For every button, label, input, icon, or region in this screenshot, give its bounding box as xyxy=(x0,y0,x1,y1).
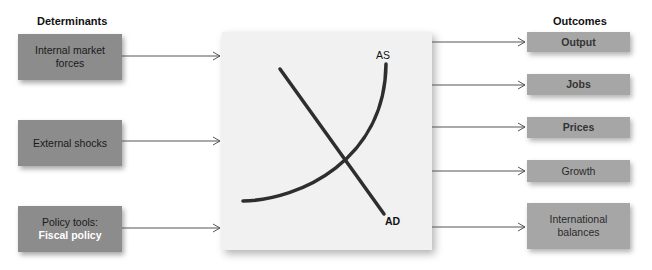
as-ad-curves xyxy=(243,64,386,214)
ad-label: AD xyxy=(385,215,400,227)
as-curve xyxy=(243,64,386,201)
connectors-and-curves xyxy=(0,0,652,270)
as-label: AS xyxy=(376,49,390,61)
output-arrows xyxy=(432,38,525,231)
input-arrows xyxy=(122,52,220,232)
